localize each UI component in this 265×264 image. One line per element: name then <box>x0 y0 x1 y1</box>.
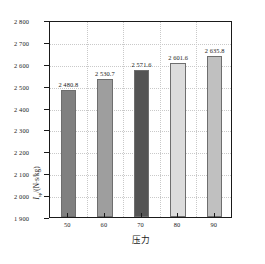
y-tick-label: 2 000 <box>14 193 29 200</box>
y-tick-label: 2 200 <box>14 149 29 156</box>
bar <box>97 79 112 217</box>
bar-value-label: 2 635.8 <box>193 47 237 54</box>
y-axis-units: /(N·s/kg) <box>33 167 41 193</box>
x-tick-label: 60 <box>101 221 108 228</box>
bar <box>134 70 149 217</box>
y-tick-label: 2 100 <box>14 171 29 178</box>
bar-value-label: 2 530.7 <box>83 70 127 77</box>
bar <box>170 63 185 217</box>
x-tick-mark <box>104 213 105 218</box>
y-axis-subscript: sp <box>37 193 42 197</box>
x-axis-title: 压力 <box>49 233 232 245</box>
x-tick-label: 70 <box>137 221 144 228</box>
x-tick-mark <box>67 213 68 218</box>
x-tick-label: 50 <box>64 221 71 228</box>
chart-figure: Isp/(N·s/kg) 1 9002 0002 1002 2002 3002 … <box>0 0 265 264</box>
y-tick-label: 2 600 <box>14 61 29 68</box>
page-caption-remnant <box>10 256 259 263</box>
plot-area: 2 480.82 530.72 571.62 601.62 635.8 <box>49 21 232 218</box>
x-tick-mark <box>177 213 178 218</box>
y-tick-label: 2 800 <box>14 18 29 25</box>
bar-value-label: 2 601.6 <box>156 54 200 61</box>
x-tick-label: 80 <box>174 221 181 228</box>
bar-series: 2 480.82 530.72 571.62 601.62 635.8 <box>50 22 231 217</box>
y-tick-label: 1 900 <box>14 215 29 222</box>
bar-value-label: 2 480.8 <box>46 81 90 88</box>
y-tick-label: 2 700 <box>14 39 29 46</box>
y-tick-label: 2 500 <box>14 83 29 90</box>
x-tick-label: 90 <box>210 221 217 228</box>
y-axis-title: Isp/(N·s/kg) <box>33 133 41 233</box>
y-tick-label: 2 300 <box>14 127 29 134</box>
bar <box>207 56 222 217</box>
x-tick-mark <box>141 213 142 218</box>
bar <box>61 90 76 217</box>
y-tick-mark <box>44 218 49 219</box>
y-axis-symbol: I <box>33 198 41 200</box>
y-tick-label: 2 400 <box>14 105 29 112</box>
bar-value-label: 2 571.6 <box>120 61 164 68</box>
x-tick-mark <box>214 213 215 218</box>
